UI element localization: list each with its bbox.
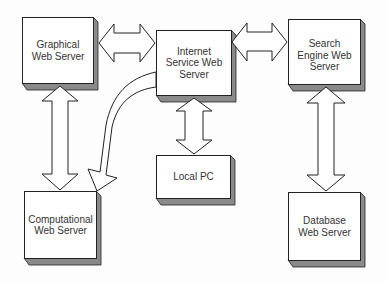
arrow-internet-search (232, 23, 287, 61)
node-internet-service-web-server: Internet Service Web Server (156, 30, 232, 96)
node-local-pc: Local PC (156, 155, 231, 199)
node-label: Database Web Server (298, 215, 351, 238)
node-label: Computational Web Server (28, 214, 92, 237)
arrow-search-database (307, 87, 345, 191)
arrow-internet-localpc (176, 98, 212, 154)
node-computational-web-server: Computational Web Server (24, 191, 97, 259)
arrow-graphical-internet (99, 24, 155, 62)
node-graphical-web-server: Graphical Web Server (22, 17, 94, 84)
arrow-graphical-computational (42, 86, 78, 190)
node-label: Graphical Web Server (32, 39, 85, 62)
node-label: Local PC (173, 171, 214, 183)
node-label: Internet Service Web Server (166, 46, 223, 81)
node-search-engine-web-server: Search Engine Web Server (288, 19, 361, 85)
node-database-web-server: Database Web Server (288, 192, 361, 261)
node-label: Search Engine Web Server (297, 38, 351, 73)
